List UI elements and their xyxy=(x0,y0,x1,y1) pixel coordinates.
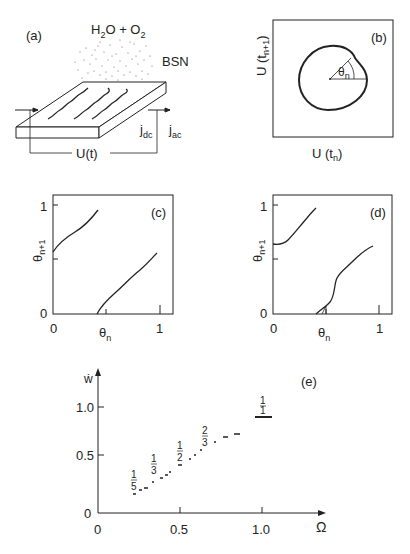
fraction-labels: 1 5 1 3 1 2 2 3 1 1 xyxy=(131,395,266,492)
svg-text:3: 3 xyxy=(151,465,157,476)
panel-d-xlabel: θn xyxy=(318,325,330,343)
panel-e-xlabel: Ω xyxy=(316,519,326,535)
panel-b: (b) θn U (tn) U (tn+1) xyxy=(254,20,393,163)
panel-a-label: (a) xyxy=(26,28,42,43)
xtick-label-0: 0 xyxy=(270,321,277,336)
y-axis-arrow-icon xyxy=(95,368,101,376)
panel-d: (d) 1 0 0 1 θn θn+1 xyxy=(250,195,392,343)
map-lower-branch xyxy=(97,253,157,314)
fraction-2-3: 2 3 xyxy=(202,425,208,448)
attractor-loop xyxy=(299,46,367,110)
current-ac-label: jac xyxy=(168,122,182,140)
panel-d-ylabel: θn+1 xyxy=(250,239,267,262)
ytick-label-0: 0 xyxy=(84,506,91,521)
panel-e: (e) ẇ Ω 1.0 0.5 0 0 0.5 1.0 xyxy=(76,368,326,537)
current-dc-label: jdc xyxy=(139,122,153,140)
panel-c-label: (c) xyxy=(151,205,166,220)
angle-label: θn xyxy=(338,65,350,81)
map-lower-branch xyxy=(316,246,373,314)
panel-b-label: (b) xyxy=(371,30,387,45)
xtick-label-1.0: 1.0 xyxy=(252,522,270,537)
panel-c-xlabel: θn xyxy=(99,325,111,343)
map-upper-branch xyxy=(53,210,98,252)
fraction-1-5: 1 5 xyxy=(131,469,137,492)
ytick-label-0: 0 xyxy=(260,306,267,321)
svg-text:2: 2 xyxy=(202,425,208,436)
panel-e-ylabel: ẇ xyxy=(83,372,93,386)
xtick-label-0.5: 0.5 xyxy=(170,522,188,537)
xtick-label-0: 0 xyxy=(50,321,57,336)
svg-text:1: 1 xyxy=(151,453,157,464)
fraction-1-2: 1 2 xyxy=(177,440,183,463)
ytick-label-1.0: 1.0 xyxy=(76,400,94,415)
ytick-label-0.5: 0.5 xyxy=(76,448,94,463)
center-dot xyxy=(329,78,331,80)
panel-c: (c) 1 0 0 1 θn θn+1 xyxy=(30,195,173,343)
x-axis-arrow-icon xyxy=(318,510,326,516)
gas-label: H2O + O2 xyxy=(91,22,145,40)
figure-canvas: (a) H2O + O2 BSN xyxy=(0,0,410,554)
panel-b-ylabel: U (tn+1) xyxy=(254,35,271,76)
map-upper-branch xyxy=(273,208,316,244)
svg-text:1: 1 xyxy=(131,469,137,480)
xtick-label-0: 0 xyxy=(94,522,101,537)
fraction-1-1: 1 1 xyxy=(260,395,266,416)
ytick-label-0: 0 xyxy=(40,306,47,321)
gas-cloud-stipple xyxy=(74,39,152,80)
svg-text:1: 1 xyxy=(260,405,266,416)
material-label: BSN xyxy=(162,54,189,69)
panel-a: (a) H2O + O2 BSN xyxy=(15,22,189,161)
panel-c-ylabel: θn+1 xyxy=(30,239,47,262)
voltage-label: U(t) xyxy=(76,146,98,161)
svg-text:2: 2 xyxy=(177,452,183,463)
ytick-label-1: 1 xyxy=(260,199,267,214)
panel-b-xlabel: U (tn) xyxy=(312,146,342,163)
svg-text:5: 5 xyxy=(131,481,137,492)
panel-e-label: (e) xyxy=(301,374,317,389)
xtick-label-1: 1 xyxy=(156,321,163,336)
fraction-1-3: 1 3 xyxy=(151,453,157,476)
panel-d-label: (d) xyxy=(370,205,386,220)
svg-text:3: 3 xyxy=(202,437,208,448)
svg-text:1: 1 xyxy=(177,440,183,451)
xtick-label-1: 1 xyxy=(376,321,383,336)
ytick-label-1: 1 xyxy=(40,199,47,214)
